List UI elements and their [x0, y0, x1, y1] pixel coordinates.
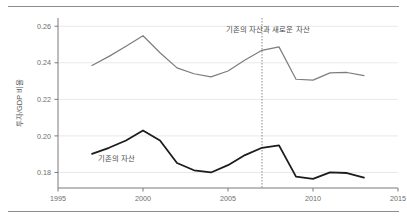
- x-tick-label-2: 2005: [220, 194, 236, 203]
- y-tick-label-0: 0.18: [37, 168, 51, 177]
- x-tick-label-4: 2015: [390, 194, 406, 203]
- x-tick-label-0: 1995: [50, 194, 66, 203]
- y-axis-title: 투자/GDP 비율: [15, 79, 24, 127]
- figure-container: 0.180.200.220.240.26 1995200020052010201…: [0, 0, 407, 224]
- upper-series-label: 기존의 자산과 새로운 자산: [226, 25, 309, 34]
- series-line-0: [92, 36, 364, 80]
- y-tick-label-2: 0.22: [37, 95, 51, 104]
- x-tick-label-3: 2010: [305, 194, 321, 203]
- chart-svg: 0.180.200.220.240.26 1995200020052010201…: [0, 0, 407, 224]
- y-tick-label-4: 0.26: [37, 22, 51, 31]
- x-tick-group: 19952000200520102015: [50, 188, 406, 203]
- line-chart: 0.180.200.220.240.26 1995200020052010201…: [0, 0, 407, 224]
- x-tick-label-1: 2000: [135, 194, 151, 203]
- y-tick-label-3: 0.24: [37, 58, 51, 67]
- gridlines-group: [58, 26, 398, 172]
- y-tick-group: 0.180.200.220.240.26: [37, 22, 58, 177]
- y-tick-label-1: 0.20: [37, 132, 51, 141]
- annotation-group: 기존의 자산과 새로운 자산기존의 자산: [98, 25, 309, 163]
- lower-series-label: 기존의 자산: [98, 154, 135, 163]
